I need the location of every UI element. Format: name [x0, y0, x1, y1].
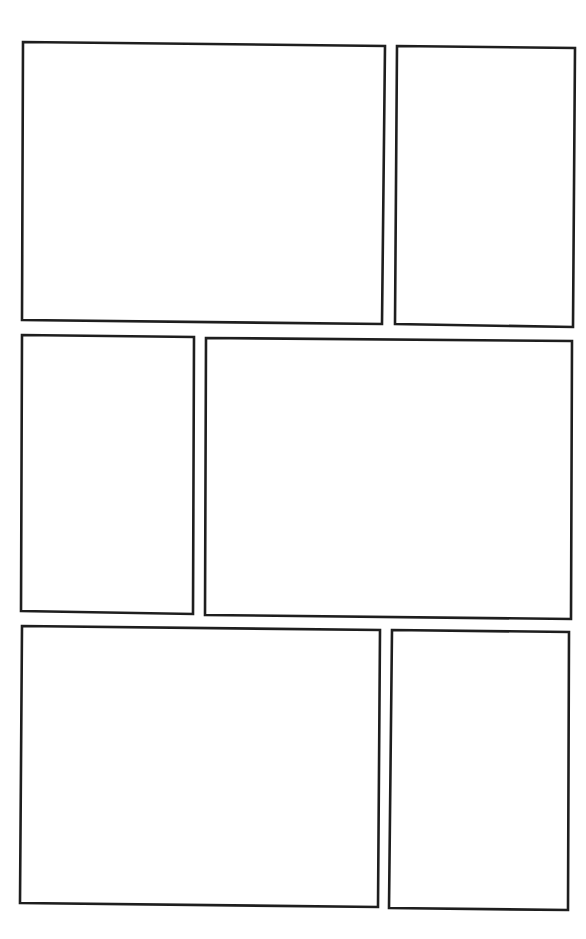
- comic-page: [0, 0, 586, 939]
- comic-panel-5: [20, 626, 380, 907]
- comic-panel-6: [389, 630, 569, 910]
- comic-panel-4: [205, 338, 572, 619]
- comic-panel-3: [21, 335, 194, 614]
- comic-panel-2: [395, 46, 575, 327]
- comic-panel-1: [22, 42, 385, 324]
